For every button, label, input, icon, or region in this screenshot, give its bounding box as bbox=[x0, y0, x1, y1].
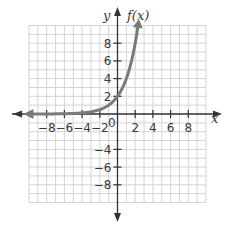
x-tick-label: 8 bbox=[184, 121, 192, 135]
y-tick-label: 8 bbox=[104, 37, 112, 51]
y-tick-label: −6 bbox=[94, 161, 112, 175]
function-label: f(x) bbox=[126, 8, 149, 23]
x-tick-label: 4 bbox=[149, 121, 157, 135]
y-tick-label: 6 bbox=[104, 54, 112, 68]
y-tick-label: 2 bbox=[104, 90, 112, 104]
y-axis-arrow-down-icon bbox=[114, 213, 121, 222]
y-tick-label: −8 bbox=[94, 178, 112, 192]
y-axis-arrow-up-icon bbox=[114, 7, 121, 16]
coordinate-plane: −8−6−4−22468−8−6−42468 x y f(x) 0 bbox=[0, 0, 233, 230]
curve-arrow-left-icon bbox=[23, 109, 33, 119]
y-tick-label: 4 bbox=[104, 72, 112, 86]
x-axis-label: x bbox=[211, 111, 219, 126]
function-curve bbox=[33, 27, 137, 114]
origin-label: 0 bbox=[108, 116, 116, 130]
x-tick-label: −4 bbox=[73, 121, 91, 135]
x-tick-label: −2 bbox=[91, 121, 109, 135]
x-tick-label: −6 bbox=[56, 121, 74, 135]
y-axis-label: y bbox=[102, 8, 111, 23]
x-tick-label: −8 bbox=[38, 121, 56, 135]
x-tick-label: 2 bbox=[131, 121, 139, 135]
y-tick-label: −4 bbox=[94, 143, 112, 157]
x-axis-arrow-left-icon bbox=[13, 111, 22, 118]
x-tick-label: 6 bbox=[167, 121, 175, 135]
